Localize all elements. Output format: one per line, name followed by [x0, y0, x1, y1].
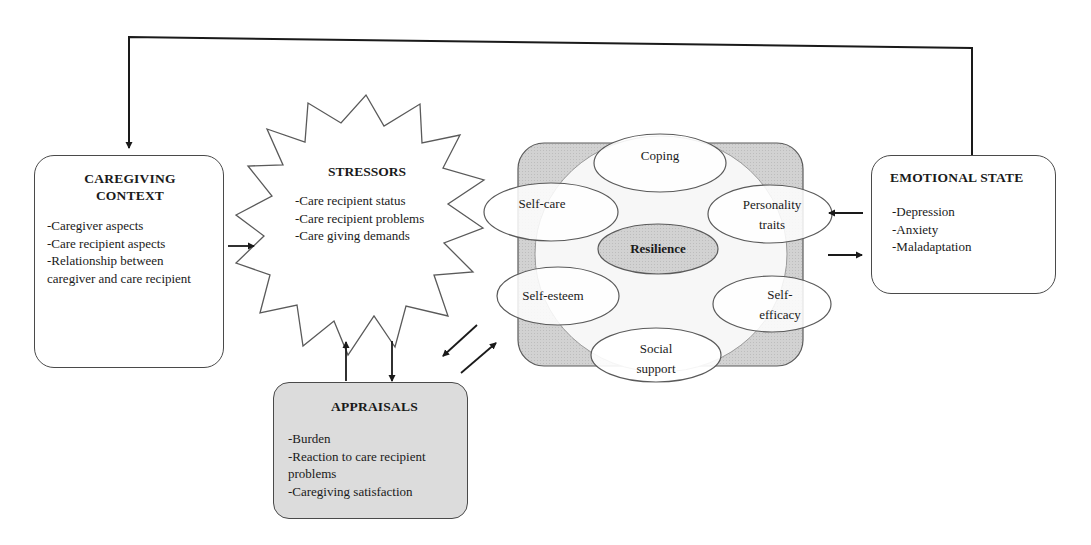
- list-item: -Care recipient aspects: [47, 235, 207, 253]
- factor-label-self-esteem: Self-esteem: [503, 288, 603, 304]
- appraisals-box: APPRAISALS -Burden -Reaction to care rec…: [273, 382, 468, 519]
- stressors-items: -Care recipient status -Care recipient p…: [295, 192, 435, 245]
- caregiving-context-title: CAREGIVING CONTEXT: [47, 170, 213, 204]
- list-item: -Care recipient status: [295, 192, 435, 210]
- stressors-title: STRESSORS: [322, 164, 412, 180]
- emotional-state-box: EMOTIONAL STATE -Depression -Anxiety -Ma…: [871, 155, 1056, 294]
- resilience-core-label: Resilience: [608, 241, 708, 257]
- emotional-state-title: EMOTIONAL STATE: [890, 169, 1047, 186]
- arrow-resilience-to-appraisals: [443, 325, 477, 356]
- caregiving-context-box: CAREGIVING CONTEXT -Caregiver aspects -C…: [34, 155, 224, 368]
- caregiving-context-items: -Caregiver aspects -Care recipient aspec…: [47, 217, 207, 287]
- emotional-state-items: -Depression -Anxiety -Maladaptation: [892, 203, 1047, 256]
- factor-label-coping: Coping: [620, 148, 700, 164]
- factor-label-self-efficacy: Self- efficacy: [735, 287, 825, 323]
- factor-label-personality-traits: Personality traits: [722, 197, 822, 233]
- arrow-appraisals-to-resilience: [461, 343, 496, 373]
- list-item: -Burden: [288, 430, 461, 448]
- list-item: -Caregiving satisfaction: [288, 483, 461, 501]
- list-item: -Depression: [892, 203, 1047, 221]
- list-item: -Reaction to care recipient problems: [288, 448, 461, 483]
- factor-ellipse-self-care: [484, 183, 618, 241]
- feedback-loop-connector: [129, 37, 972, 155]
- list-item: -Care recipient problems: [295, 210, 435, 228]
- list-item: -Relationship between caregiver and care…: [47, 252, 207, 287]
- list-item: -Maladaptation: [892, 238, 1047, 256]
- appraisals-items: -Burden -Reaction to care recipient prob…: [288, 430, 461, 500]
- factor-label-social-support: Social support: [611, 341, 701, 377]
- list-item: -Caregiver aspects: [47, 217, 207, 235]
- list-item: -Anxiety: [892, 221, 1047, 239]
- factor-label-self-care: Self-care: [492, 196, 592, 212]
- appraisals-title: APPRAISALS: [288, 398, 461, 415]
- list-item: -Care giving demands: [295, 227, 435, 245]
